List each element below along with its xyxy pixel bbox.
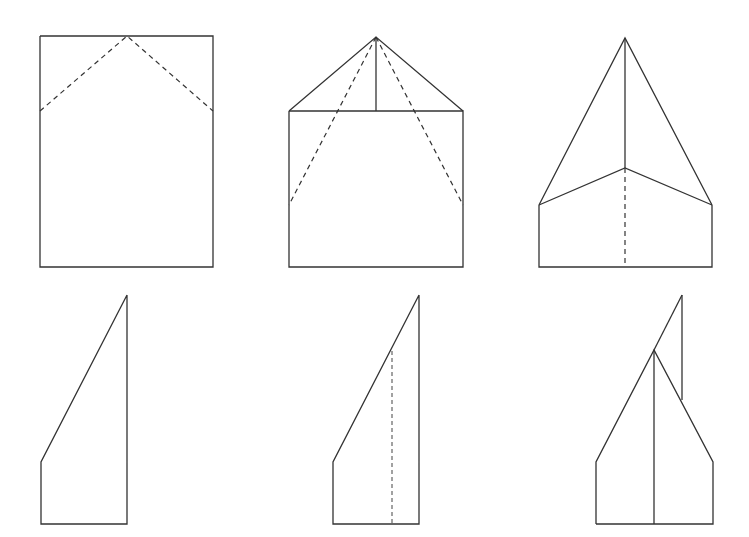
solid-edge [41, 295, 127, 524]
solid-edge [289, 111, 463, 267]
dashed-fold-line [289, 37, 376, 205]
fold-step-3 [539, 38, 712, 267]
solid-edge [333, 295, 419, 524]
dashed-fold-line [40, 36, 213, 111]
fold-step-4 [41, 295, 127, 524]
dashed-fold-line [376, 37, 463, 205]
solid-edge [654, 295, 682, 350]
fold-step-1 [40, 36, 213, 267]
solid-edge [40, 36, 213, 267]
paper-airplane-folding-diagram [0, 0, 749, 537]
fold-step-6 [596, 295, 713, 524]
fold-step-5 [333, 295, 419, 524]
fold-step-2 [289, 37, 463, 267]
